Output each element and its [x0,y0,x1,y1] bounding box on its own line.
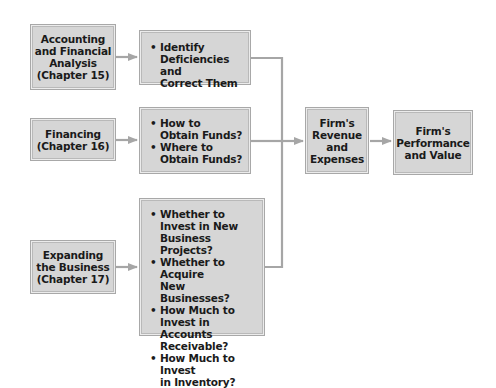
node-financing-label: Financing (Chapter 16) [37,128,110,152]
accounting-task-list: Identify Deficiencies and Correct Them [150,41,244,89]
node-performance: Firm's Performance and Value [393,110,473,175]
task-item: Whether to Invest in New Business Projec… [150,208,258,256]
node-revenue-label: Firm's Revenue and Expenses [310,117,364,165]
node-expanding-tasks: Whether to Invest in New Business Projec… [139,198,265,336]
task-item: How Much to Invest in Accounts Receivabl… [150,304,258,352]
task-item: Whether to Acquire New Businesses? [150,256,258,304]
task-item: How to Obtain Funds? [150,117,244,141]
expanding-task-list: Whether to Invest in New Business Projec… [150,208,258,388]
node-performance-label: Firm's Performance and Value [396,125,470,161]
task-item: How Much to Invest in Inventory? [150,352,258,388]
node-financing-tasks: How to Obtain Funds? Where to Obtain Fun… [139,107,251,174]
task-item: Identify Deficiencies and Correct Them [150,41,244,89]
node-expanding: Expanding the Business (Chapter 17) [30,240,116,294]
node-financing: Financing (Chapter 16) [30,118,116,161]
node-revenue: Firm's Revenue and Expenses [305,107,369,174]
node-expanding-label: Expanding the Business (Chapter 17) [36,249,109,285]
financing-task-list: How to Obtain Funds? Where to Obtain Fun… [150,117,244,165]
node-accounting-tasks: Identify Deficiencies and Correct Them [139,30,251,85]
node-accounting-label: Accounting and Financial Analysis (Chapt… [35,33,111,81]
node-accounting: Accounting and Financial Analysis (Chapt… [30,24,116,90]
task-item: Where to Obtain Funds? [150,141,244,165]
